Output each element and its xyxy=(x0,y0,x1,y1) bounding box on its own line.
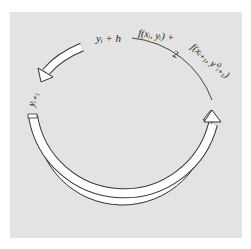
large-arc-outline xyxy=(33,116,213,193)
large-arc-tail xyxy=(28,114,37,118)
label-yi-plus-1: yᵢ₊₁ xyxy=(25,91,40,109)
label-denominator: 2 xyxy=(171,48,180,60)
label-yi-plus-h: yᵢ + h xyxy=(95,32,122,44)
cycle-diagram: yᵢ + h f(xᵢ, yᵢ) + f(xᵢ₊₁, y⁰ᵢ₊₁) 2 yᵢ₊₁ xyxy=(0,0,251,249)
label-numerator-part2: f(xᵢ₊₁, y⁰ᵢ₊₁) xyxy=(188,41,233,81)
large-arc-fill xyxy=(33,116,213,193)
short-arrow-fill xyxy=(46,47,82,72)
label-numerator-part1: f(xᵢ, yᵢ) + xyxy=(138,27,175,44)
